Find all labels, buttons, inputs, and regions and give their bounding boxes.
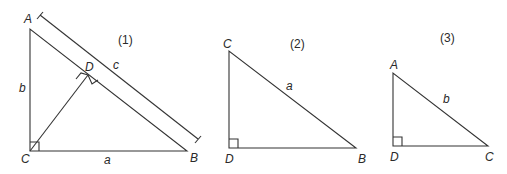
vertex-label-D: D bbox=[225, 152, 234, 166]
side-label-a: a bbox=[286, 79, 293, 93]
triangle-ADC bbox=[393, 73, 488, 146]
triangle-ABC bbox=[30, 29, 187, 151]
side-label-b: b bbox=[443, 92, 450, 106]
figure-3: (3) A b D C bbox=[389, 31, 494, 164]
figure-1: (1) A b C a B D c bbox=[19, 12, 201, 167]
vertex-label-A: A bbox=[23, 12, 32, 26]
vertex-label-C: C bbox=[223, 37, 232, 51]
triangle-CDB bbox=[229, 51, 356, 148]
vertex-label-C: C bbox=[21, 152, 30, 166]
right-angle-marker-D bbox=[393, 137, 402, 146]
altitude-CD bbox=[30, 75, 88, 151]
vertex-label-B: B bbox=[190, 151, 198, 165]
figure-2: (2) C a D B bbox=[223, 37, 366, 166]
side-label-c: c bbox=[113, 58, 119, 72]
vertex-label-B: B bbox=[358, 152, 366, 166]
right-angle-marker-D bbox=[229, 139, 238, 148]
caption-2: (2) bbox=[290, 37, 305, 51]
vertex-label-D: D bbox=[390, 150, 399, 164]
vertex-label-C: C bbox=[485, 150, 494, 164]
dimension-tick-top bbox=[37, 12, 43, 19]
vertex-label-A: A bbox=[389, 58, 398, 72]
caption-3: (3) bbox=[440, 31, 455, 45]
right-angle-marker-D-right bbox=[88, 75, 98, 84]
side-label-b: b bbox=[19, 81, 26, 95]
vertex-label-D: D bbox=[85, 60, 94, 74]
diagram-canvas: (1) A b C a B D c (2) C a D B (3) A b D … bbox=[0, 0, 507, 174]
side-label-a: a bbox=[104, 153, 111, 167]
caption-1: (1) bbox=[118, 33, 133, 47]
